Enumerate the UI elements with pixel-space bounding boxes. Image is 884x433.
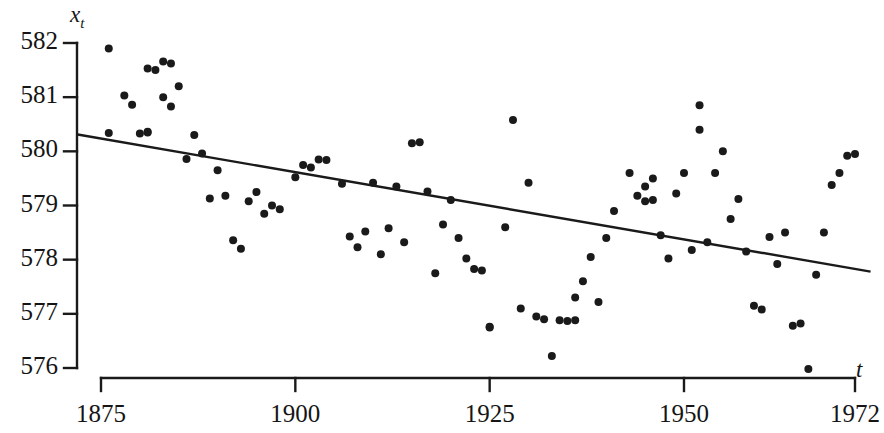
data-point bbox=[470, 265, 478, 273]
data-point bbox=[641, 197, 649, 205]
data-point bbox=[828, 181, 836, 189]
data-point bbox=[447, 196, 455, 204]
data-point bbox=[221, 192, 229, 200]
data-point bbox=[354, 243, 362, 251]
data-point bbox=[540, 315, 548, 323]
data-point bbox=[711, 169, 719, 177]
data-point bbox=[190, 131, 198, 139]
x-axis-title: t bbox=[856, 357, 862, 383]
data-point bbox=[276, 205, 284, 213]
data-point bbox=[237, 245, 245, 253]
data-point bbox=[128, 101, 136, 109]
data-point bbox=[214, 166, 222, 174]
data-point bbox=[758, 306, 766, 314]
data-point bbox=[462, 255, 470, 263]
data-point bbox=[423, 187, 431, 195]
y-axis-tick-label: 578 bbox=[0, 244, 58, 272]
data-point bbox=[431, 269, 439, 277]
data-point bbox=[773, 260, 781, 268]
data-point bbox=[439, 220, 447, 228]
data-point bbox=[175, 82, 183, 90]
data-point bbox=[727, 215, 735, 223]
y-axis-tick-label: 580 bbox=[0, 135, 58, 163]
data-point bbox=[299, 161, 307, 169]
data-point bbox=[105, 44, 113, 52]
data-point bbox=[594, 298, 602, 306]
data-point bbox=[587, 253, 595, 261]
data-point bbox=[742, 248, 750, 256]
data-point bbox=[501, 223, 509, 231]
y-axis-tick-label: 579 bbox=[0, 190, 58, 218]
data-point bbox=[804, 365, 812, 373]
data-point bbox=[765, 233, 773, 241]
data-point bbox=[322, 156, 330, 164]
data-point bbox=[812, 271, 820, 279]
x-axis-tick-label: 1972 bbox=[800, 400, 884, 428]
data-point bbox=[571, 294, 579, 302]
data-point bbox=[291, 173, 299, 181]
y-axis-tick-label: 577 bbox=[0, 298, 58, 326]
data-point bbox=[641, 183, 649, 191]
data-point bbox=[664, 255, 672, 263]
data-point bbox=[120, 92, 128, 100]
data-point bbox=[797, 320, 805, 328]
data-point bbox=[703, 238, 711, 246]
data-point bbox=[548, 352, 556, 360]
data-point bbox=[408, 139, 416, 147]
data-point bbox=[252, 188, 260, 196]
data-point bbox=[532, 313, 540, 321]
data-point bbox=[385, 224, 393, 232]
trend-line-segment bbox=[78, 135, 871, 272]
data-point bbox=[198, 150, 206, 158]
data-point bbox=[144, 128, 152, 136]
data-point bbox=[680, 169, 688, 177]
x-axis-tick-label: 1900 bbox=[240, 400, 350, 428]
data-point bbox=[672, 190, 680, 198]
data-point bbox=[571, 316, 579, 324]
data-point bbox=[260, 210, 268, 218]
data-point bbox=[781, 229, 789, 237]
data-point bbox=[377, 250, 385, 258]
data-points bbox=[105, 44, 859, 373]
data-point bbox=[361, 228, 369, 236]
axes bbox=[64, 43, 855, 391]
x-axis-tick-label: 1875 bbox=[46, 400, 156, 428]
data-point bbox=[105, 129, 113, 137]
data-point bbox=[229, 236, 237, 244]
data-point bbox=[517, 304, 525, 312]
data-point bbox=[649, 196, 657, 204]
data-point bbox=[151, 66, 159, 74]
data-point bbox=[579, 277, 587, 285]
data-point bbox=[851, 150, 859, 158]
data-point bbox=[556, 316, 564, 324]
data-point bbox=[610, 207, 618, 215]
x-axis-tick-label: 1950 bbox=[629, 400, 739, 428]
data-point bbox=[478, 267, 486, 275]
data-point bbox=[455, 234, 463, 242]
y-axis-title-subscript: t bbox=[80, 15, 84, 31]
data-point bbox=[315, 155, 323, 163]
data-point bbox=[338, 180, 346, 188]
data-point bbox=[750, 302, 758, 310]
data-point bbox=[602, 234, 610, 242]
data-point bbox=[835, 169, 843, 177]
data-point bbox=[633, 192, 641, 200]
data-point bbox=[563, 317, 571, 325]
data-point bbox=[159, 93, 167, 101]
data-point bbox=[346, 232, 354, 240]
y-axis-tick-label: 582 bbox=[0, 27, 58, 55]
data-point bbox=[688, 246, 696, 254]
y-axis-tick-label: 581 bbox=[0, 81, 58, 109]
data-point bbox=[789, 322, 797, 330]
data-point bbox=[167, 60, 175, 68]
data-point bbox=[657, 231, 665, 239]
data-point bbox=[144, 64, 152, 72]
data-point bbox=[719, 147, 727, 155]
data-point bbox=[183, 155, 191, 163]
y-axis-tick-label: 576 bbox=[0, 352, 58, 380]
data-point bbox=[245, 197, 253, 205]
data-point bbox=[649, 174, 657, 182]
y-axis-title-symbol: x bbox=[70, 2, 80, 27]
